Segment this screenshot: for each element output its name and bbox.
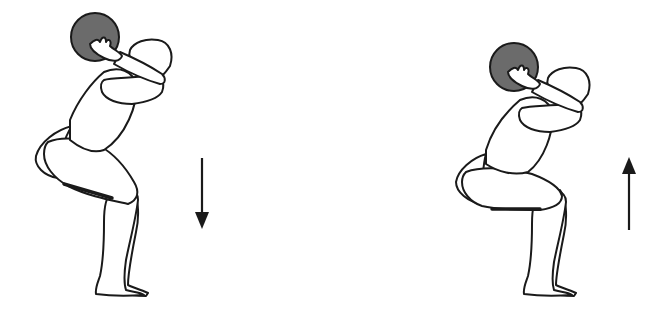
arrow-up-icon [622, 157, 636, 230]
figure-descent [36, 13, 209, 296]
front-shin [96, 189, 144, 296]
exercise-illustration: Squat down (lowering phase) Stand up (ri… [0, 0, 664, 321]
figure-ascent [456, 43, 636, 296]
arrow-down-icon [195, 158, 209, 229]
thigh [462, 168, 562, 210]
